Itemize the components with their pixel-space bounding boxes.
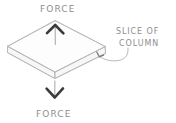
- force-label-top: FORCE: [40, 4, 76, 14]
- force-arrow-down: [47, 81, 63, 98]
- slice-of-column-slab: [8, 21, 106, 79]
- callout-label-line2: COLUMN: [119, 39, 159, 48]
- force-label-bottom: FORCE: [36, 109, 72, 119]
- callout-label-line1: SLICE OF: [116, 27, 159, 36]
- diagram-canvas: FORCE FORCE SLICE OF COLUMN: [0, 0, 176, 123]
